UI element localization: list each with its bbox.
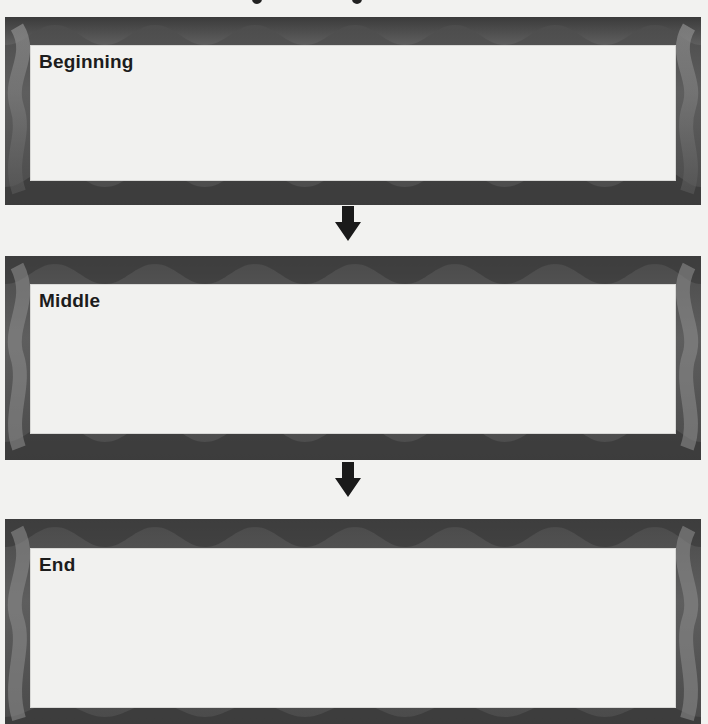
middle-writing-area[interactable]: Middle: [30, 284, 676, 434]
beginning-writing-area[interactable]: Beginning: [30, 45, 676, 181]
panel-beginning: Beginning: [5, 17, 701, 205]
panel-end: End: [5, 519, 701, 724]
cropped-title-fragment: [0, 0, 708, 10]
down-arrow-icon: [334, 462, 362, 498]
end-writing-area[interactable]: End: [30, 548, 676, 708]
title-glyph-fragment: [352, 0, 362, 4]
panel-label-beginning: Beginning: [39, 51, 134, 73]
panel-label-end: End: [39, 554, 76, 576]
panel-middle: Middle: [5, 256, 701, 460]
title-glyph-fragment: [252, 0, 262, 4]
panel-label-middle: Middle: [39, 290, 100, 312]
down-arrow-icon: [334, 206, 362, 242]
